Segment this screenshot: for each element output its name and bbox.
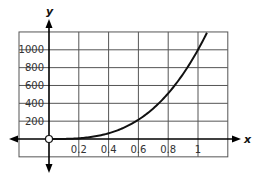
- y-tick-label: 800: [25, 62, 44, 73]
- y-tick-label: 200: [25, 116, 44, 127]
- axes: [9, 19, 241, 173]
- chart: 0.20.40.60.812004006008001000 x y: [0, 0, 267, 176]
- y-axis-arrow-up-icon: [46, 19, 53, 28]
- y-tick-label: 600: [25, 80, 44, 91]
- y-axis-arrow-down-icon: [46, 164, 53, 173]
- x-axis-arrow-left-icon: [9, 136, 18, 143]
- x-axis-arrow-right-icon: [232, 136, 241, 143]
- y-axis-label: y: [46, 5, 54, 18]
- x-tick-label: 0.6: [130, 144, 146, 155]
- x-tick-label: 0.2: [71, 144, 87, 155]
- y-tick-label: 400: [25, 98, 44, 109]
- x-axis-label: x: [243, 133, 252, 146]
- x-tick-label: 0.4: [101, 144, 117, 155]
- origin-open-circle: [46, 136, 53, 143]
- x-tick-label: 0.8: [160, 144, 176, 155]
- x-tick-label: 1: [195, 144, 201, 155]
- y-tick-label: 1000: [19, 44, 44, 55]
